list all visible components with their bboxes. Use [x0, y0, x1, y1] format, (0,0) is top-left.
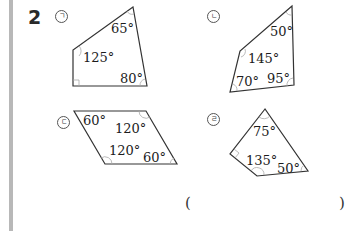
angle-label: 80°: [120, 71, 143, 86]
angle-arc: [79, 46, 81, 56]
angle-arc: [301, 165, 304, 171]
answer-close-paren: ): [339, 194, 345, 212]
angle-label: 120°: [115, 121, 146, 136]
angle-label: 125°: [83, 50, 114, 65]
angle-label: 95°: [267, 71, 290, 86]
angle-label: 50°: [277, 161, 300, 176]
angle-arc: [286, 12, 292, 15]
figure-d: 75° 135° 50°: [230, 109, 308, 176]
angle-label: 135°: [246, 153, 277, 168]
angle-label: 65°: [111, 21, 134, 36]
angle-label: 60°: [83, 113, 106, 128]
angle-label: 60°: [143, 150, 166, 165]
angle-arc: [127, 11, 134, 14]
angle-arc: [251, 168, 264, 175]
figure-c: 60° 120° 120° 60°: [74, 111, 177, 165]
right-angle-mark: [234, 149, 239, 158]
angle-label: 75°: [253, 124, 276, 139]
answer-open-paren: (: [185, 194, 191, 212]
angle-label: 50°: [270, 24, 293, 39]
figure-b: 50° 145° 70° 95°: [230, 6, 294, 92]
angle-label: 120°: [109, 143, 140, 158]
angle-arc: [259, 116, 270, 119]
angle-label: 145°: [248, 51, 279, 66]
figure-a: 65° 125° 80°: [73, 7, 147, 86]
angle-label: 70°: [236, 74, 259, 89]
answer-field[interactable]: [196, 196, 334, 214]
right-angle-mark: [73, 80, 79, 86]
